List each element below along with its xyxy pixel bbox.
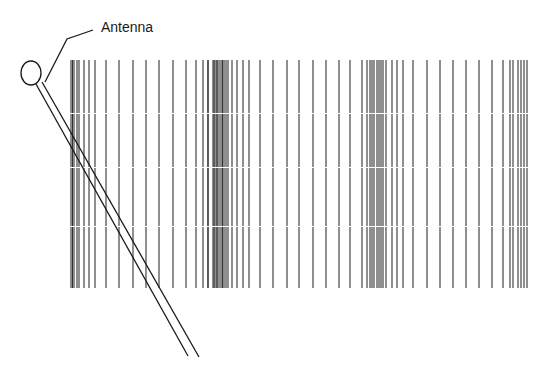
antenna-rod-edge-left — [36, 84, 188, 356]
antenna-grating-diagram — [0, 0, 549, 377]
antenna-rod-edge-right — [42, 82, 199, 357]
antenna-head-icon — [21, 61, 41, 85]
antenna-drawing — [21, 30, 199, 357]
label-leader-line — [45, 30, 93, 82]
antenna-label: Antenna — [101, 20, 153, 34]
